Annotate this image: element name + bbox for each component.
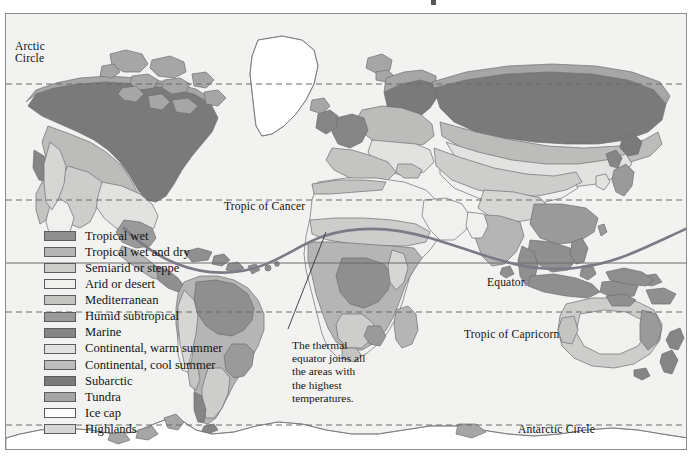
legend-item: Continental, warm summer — [44, 341, 249, 357]
legend-item: Subarctic — [44, 373, 249, 389]
label-equator: Equator — [487, 276, 525, 288]
legend-swatch — [44, 344, 76, 354]
legend-swatch — [44, 312, 76, 322]
legend-label: Marine — [85, 326, 121, 339]
label-antarctic-circle: Antarctic Circle — [518, 423, 595, 435]
legend-swatch — [44, 279, 76, 289]
label-arctic-circle-line1: Arctic — [15, 40, 45, 52]
screenshot-root: .ln{stroke:#6e6e6e;stroke-width:.7;} .tw… — [0, 0, 692, 457]
legend-label: Semiarid or steppe — [85, 262, 179, 275]
legend-swatch — [44, 295, 76, 305]
label-arctic-circle: Arctic Circle — [15, 40, 45, 65]
legend-label: Highlands — [85, 423, 137, 436]
legend-label: Continental, warm summer — [85, 342, 222, 355]
legend-swatch — [44, 328, 76, 338]
label-tropic-of-capricorn: Tropic of Capricorn — [464, 328, 559, 340]
legend-item: Highlands — [44, 421, 249, 437]
legend-swatch — [44, 360, 76, 370]
legend-item: Semiarid or steppe — [44, 260, 249, 276]
legend-swatch — [44, 263, 76, 273]
legend-item: Tropical wet — [44, 228, 249, 244]
legend-swatch — [44, 376, 76, 386]
legend-label: Continental, cool summer — [85, 359, 215, 372]
label-arctic-circle-line2: Circle — [15, 52, 45, 64]
map-frame: .ln{stroke:#6e6e6e;stroke-width:.7;} .tw… — [5, 13, 687, 450]
legend-item: Ice cap — [44, 405, 249, 421]
legend-item: Continental, cool summer — [44, 357, 249, 373]
legend-label: Mediterranean — [85, 294, 158, 307]
legend-swatch — [44, 408, 76, 418]
legend-item: Tundra — [44, 389, 249, 405]
legend-label: Humid subtropical — [85, 310, 179, 323]
legend-item: Arid or desert — [44, 276, 249, 292]
climate-legend: Tropical wetTropical wet and drySemiarid… — [44, 228, 249, 437]
thermal-equator-annotation: The thermal equator joins all the areas … — [292, 339, 366, 405]
label-tropic-of-cancer: Tropic of Cancer — [224, 200, 305, 212]
legend-label: Tropical wet — [85, 230, 149, 243]
legend-label: Arid or desert — [85, 278, 155, 291]
legend-swatch — [44, 424, 76, 434]
legend-item: Humid subtropical — [44, 308, 249, 324]
page-artifact-mark — [431, 0, 436, 5]
legend-label: Subarctic — [85, 375, 133, 388]
legend-item: Tropical wet and dry — [44, 244, 249, 260]
legend-label: Tropical wet and dry — [85, 246, 190, 259]
legend-item: Mediterranean — [44, 292, 249, 308]
legend-label: Ice cap — [85, 407, 121, 420]
legend-swatch — [44, 392, 76, 402]
legend-swatch — [44, 231, 76, 241]
legend-label: Tundra — [85, 391, 121, 404]
legend-swatch — [44, 247, 76, 257]
legend-item: Marine — [44, 325, 249, 341]
